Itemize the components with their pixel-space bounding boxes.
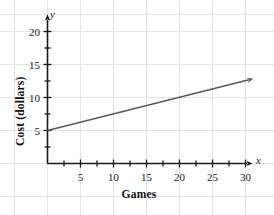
x-tick-label-15: 15 — [141, 172, 152, 183]
x-tick-label-30: 30 — [240, 172, 251, 183]
plot-area — [0, 0, 274, 215]
cost-line-series — [48, 80, 249, 131]
x-axis-title: Games — [122, 188, 157, 200]
grid-lines-horizontal — [0, 15, 274, 197]
y-axis-title: Cost (dollars) — [14, 76, 26, 146]
y-tick-label-15: 15 — [18, 59, 40, 70]
y-tick-label-5: 5 — [24, 125, 40, 136]
x-tick-label-10: 10 — [108, 172, 119, 183]
x-tick-label-25: 25 — [207, 172, 218, 183]
y-tick-label-20: 20 — [18, 26, 40, 37]
x-tick-label-5: 5 — [78, 172, 84, 183]
graph-figure: 5 10 15 20 5 10 15 20 25 30 y x Games Co… — [0, 0, 274, 215]
y-axis-letter: y — [50, 9, 55, 20]
x-tick-label-20: 20 — [174, 172, 185, 183]
x-axis-letter: x — [256, 155, 261, 166]
